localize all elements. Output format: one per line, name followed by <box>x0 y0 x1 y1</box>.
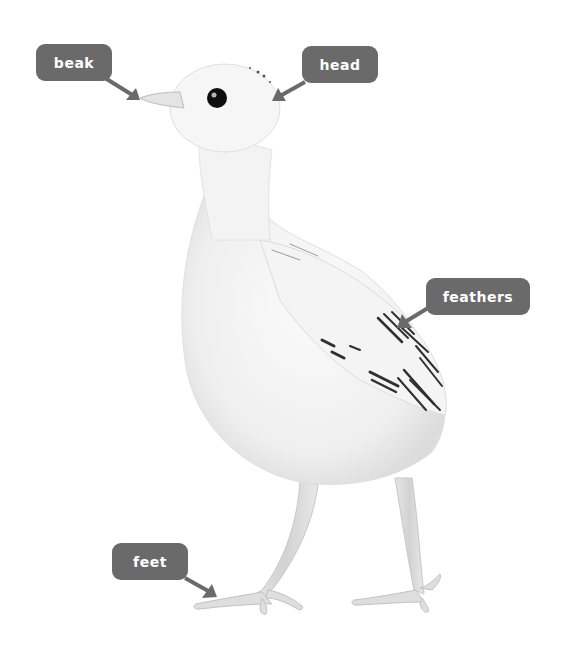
bird-illustration <box>0 0 561 648</box>
bird-beak <box>140 92 184 108</box>
label-feathers-text: feathers <box>443 289 513 305</box>
diagram-stage: beak head feathers feet <box>0 0 561 648</box>
right-foot <box>352 574 441 612</box>
label-head: head <box>302 46 378 83</box>
label-feet: feet <box>112 543 188 580</box>
bird-eye <box>207 88 227 108</box>
label-beak-text: beak <box>54 55 94 71</box>
label-feet-text: feet <box>133 554 167 570</box>
label-head-text: head <box>320 57 361 73</box>
legs <box>194 478 441 614</box>
label-feathers: feathers <box>426 278 530 315</box>
label-beak: beak <box>36 44 112 81</box>
